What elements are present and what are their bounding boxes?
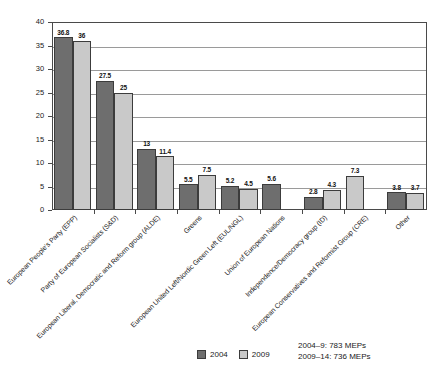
bar-value-label: 5.2 (226, 177, 234, 184)
bar-value-label: 4.5 (244, 180, 252, 187)
y-tick-label-20: 20 (36, 112, 44, 120)
bar-2009 (73, 41, 92, 210)
x-axis-label-text: Independence/Democracy group (ID) (243, 214, 328, 299)
bar-2004 (54, 37, 73, 210)
x-axis-label-text: Other (394, 214, 412, 232)
bar-value-label: 36.8 (57, 29, 69, 36)
bar-value-label: 27.5 (99, 72, 111, 79)
bar-value-label: 4.3 (328, 181, 336, 188)
legend-swatch-2004 (197, 350, 206, 359)
footnote-2004-9: 2004–9: 783 MEPs (298, 341, 428, 352)
chart-legend: 2004 2009 (197, 350, 270, 359)
y-tick-label-35: 35 (36, 42, 44, 50)
y-tick-label-10: 10 (36, 159, 44, 167)
legend-item-2004: 2004 (197, 350, 228, 359)
bar-value-label: 3.7 (411, 184, 419, 191)
y-tick-label-25: 25 (36, 89, 44, 97)
legend-item-2009: 2009 (239, 350, 270, 359)
footnotes: 2004–9: 783 MEPs 2009–14: 736 MEPs (298, 341, 428, 362)
bar-value-label: 13 (143, 140, 150, 147)
x-axis-label-text: European People's Party (EPP) (5, 214, 78, 287)
bar-group: 36.836 (52, 22, 94, 210)
legend-swatch-2009 (239, 350, 248, 359)
bar-2009 (114, 93, 133, 211)
y-axis: 0510152025303540 (0, 22, 52, 210)
y-tick-label-5: 5 (40, 183, 44, 191)
y-tick-label-15: 15 (36, 136, 44, 144)
bar-value-label: 11.4 (159, 148, 171, 155)
bar-2004 (221, 186, 240, 210)
legend-label-2004: 2004 (210, 350, 228, 359)
x-axis-label-text: Party of European Socialists (S&D) (40, 214, 120, 294)
y-tick-label-40: 40 (36, 18, 44, 26)
bar-chart: 0510152025303540 36.83627.5251311.45.57.… (0, 0, 439, 380)
footnote-2009-14: 2009–14: 736 MEPs (298, 352, 428, 363)
x-axis-label-text: Greens (182, 214, 203, 235)
x-axis-labels: European People's Party (EPP)Party of Eu… (0, 212, 439, 332)
y-tick-label-30: 30 (36, 65, 44, 73)
legend-label-2009: 2009 (252, 350, 270, 359)
bar-value-label: 7.3 (351, 167, 359, 174)
bar-value-label: 25 (120, 84, 127, 91)
bar-value-label: 36 (78, 32, 85, 39)
